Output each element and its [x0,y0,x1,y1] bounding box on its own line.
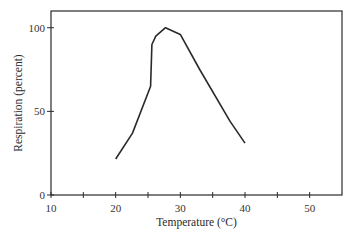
y-axis-label: Respiration (percent) [12,54,25,152]
x-tick-label: 20 [110,202,122,214]
x-axis-tick-labels: 1020304050 [46,202,316,214]
x-axis-label: Temperature (°C) [156,216,237,229]
y-tick-label: 100 [29,22,46,34]
x-tick-label: 30 [175,202,187,214]
x-tick-label: 10 [46,202,58,214]
y-axis-tick-labels: 050100 [29,22,46,201]
y-tick-label: 50 [34,105,46,117]
respiration-curve [116,28,245,159]
y-tick-label: 0 [40,189,46,201]
plot-frame [51,11,342,195]
line-chart: 1020304050 050100 Temperature (°C) Respi… [0,0,353,239]
x-tick-label: 50 [304,202,316,214]
x-tick-label: 40 [240,202,252,214]
